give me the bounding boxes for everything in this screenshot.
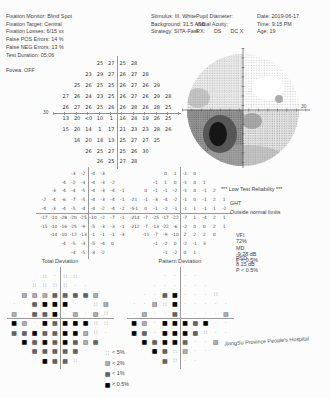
value-cell: 0 bbox=[141, 206, 151, 211]
prob-symbol: · bbox=[200, 311, 210, 316]
prob-symbol: · bbox=[160, 283, 170, 288]
prob-symbol: · bbox=[200, 348, 210, 353]
prob-symbol: ▩ bbox=[91, 338, 101, 345]
value-cell: 14 bbox=[83, 126, 94, 132]
legend-label: < 2% bbox=[112, 360, 124, 366]
grid-row: ■▨·■▩■■■∷∷ bbox=[9, 318, 111, 327]
value-cell: 26 bbox=[83, 148, 94, 154]
value-cell: 23 bbox=[128, 126, 139, 132]
value-cell: 25 bbox=[163, 115, 174, 121]
value-cell: 2 bbox=[180, 232, 190, 237]
value-cell: 26 bbox=[128, 148, 139, 154]
grayscale-plot: 30 bbox=[180, 46, 314, 170]
value-cell: 26 bbox=[117, 71, 128, 77]
grid-row: ■▨·■■■▩■·· bbox=[129, 318, 231, 327]
total-deviation-probability-map: ∷·∷∷∷∷∷∷··▨▨▨▩▩▩▩▨··▩■■■··∷▨▨·▩▩■·▨·▨∷■▨… bbox=[9, 271, 111, 365]
grid-row: -14-7-25-17-22-71-421 bbox=[130, 213, 230, 222]
value-cell: -7 bbox=[68, 197, 78, 202]
prob-symbol: ∷ bbox=[50, 282, 60, 288]
value-cell: -25 bbox=[68, 224, 78, 229]
value-cell: -1 bbox=[108, 232, 118, 237]
prob-symbol: ∷ bbox=[70, 273, 80, 279]
prob-symbol: ∷ bbox=[91, 301, 101, 307]
value-cell: -2 bbox=[98, 206, 108, 211]
value-cell: -1 bbox=[141, 197, 151, 202]
prob-symbol: ▩ bbox=[60, 291, 70, 298]
value-cell: 0 bbox=[190, 171, 200, 176]
grid-row: -17-10-28-20-25-10-2-7-1-2 bbox=[38, 213, 138, 222]
value-cell: 28 bbox=[151, 104, 162, 110]
prob-symbol: ▩ bbox=[190, 319, 200, 326]
prob-symbol: ▩ bbox=[40, 329, 50, 336]
value-cell: 27 bbox=[71, 104, 82, 110]
value-cell: -4 bbox=[49, 197, 59, 202]
prob-symbol: ■ bbox=[60, 300, 70, 307]
value-cell: -1 bbox=[117, 215, 127, 220]
value-cell: 0 bbox=[190, 224, 200, 229]
value-cell: 30 bbox=[140, 148, 151, 154]
text-line: Visual Acuity: bbox=[196, 21, 243, 29]
value-cell: 2 bbox=[209, 197, 219, 202]
value-cell: 1 bbox=[94, 126, 105, 132]
prob-symbol: ▩ bbox=[29, 338, 39, 345]
value-cell: 0 bbox=[190, 180, 200, 185]
value-cell: -10 bbox=[88, 215, 98, 220]
value-cell: 0 bbox=[141, 188, 151, 193]
prob-symbol: ▩ bbox=[19, 329, 29, 336]
prob-symbol: ▩ bbox=[50, 329, 60, 336]
value-cell: 0 bbox=[170, 180, 180, 185]
value-cell: -4 bbox=[160, 197, 170, 202]
grid-row: ·▨··▩····▨ bbox=[129, 309, 231, 318]
value-cell: 2 bbox=[200, 232, 210, 237]
prob-symbol: ■ bbox=[40, 319, 50, 326]
value-cell: 27 bbox=[106, 60, 117, 66]
prob-symbol: ▩ bbox=[160, 291, 170, 298]
value-cell: -4 bbox=[98, 241, 108, 246]
grid-row: -12-7-13-22-6-20021 bbox=[130, 222, 230, 231]
value-cell: 1 bbox=[219, 224, 229, 229]
text-line: Date: 2019-06-17 bbox=[257, 13, 299, 21]
value-cell: 1 bbox=[190, 215, 200, 220]
prob-symbol: · bbox=[9, 301, 19, 306]
value-cell: -4 bbox=[88, 197, 98, 202]
grid-row: ▨▨▨▩▩▩▩▨ bbox=[9, 290, 111, 299]
value-cell: 23 bbox=[94, 93, 105, 99]
prob-symbol: · bbox=[129, 311, 139, 316]
prob-symbol: ■ bbox=[180, 319, 190, 326]
value-cell: -11 bbox=[141, 232, 151, 237]
value-cell: -3 bbox=[98, 171, 108, 176]
grid-row: ······ bbox=[129, 280, 231, 289]
prob-symbol: ▨ bbox=[149, 300, 159, 307]
prob-symbol: · bbox=[221, 320, 231, 325]
value-cell: -14 bbox=[49, 232, 59, 237]
legend-item: ▨< 2% bbox=[103, 358, 129, 369]
value-cell: 2 bbox=[209, 215, 219, 220]
value-cell: -5 bbox=[78, 188, 88, 193]
value-cell: -1 bbox=[151, 180, 161, 185]
prob-symbol: ▩ bbox=[70, 347, 80, 354]
value-cell: 26 bbox=[117, 104, 128, 110]
grid-row: ··▩■···∷ bbox=[129, 290, 231, 299]
prob-symbol: ▩ bbox=[50, 319, 60, 326]
grid-row: 1520141172123232826 bbox=[58, 123, 176, 134]
legend-symbol: ▩ bbox=[103, 370, 112, 377]
value-cell: 27 bbox=[140, 137, 151, 143]
grid-row: 26272625262628262825 bbox=[58, 102, 176, 113]
prob-symbol: · bbox=[170, 283, 180, 288]
value-cell: -1 bbox=[98, 232, 108, 237]
value-cell: -4 bbox=[88, 188, 98, 193]
value-cell: -22 bbox=[160, 224, 170, 229]
value-cell: 16 bbox=[71, 137, 82, 143]
grid-row: -4-3-4-5-4-4-2-4-2-5 bbox=[38, 204, 138, 213]
prob-symbol: ▨ bbox=[29, 291, 39, 298]
prob-symbol: ■ bbox=[19, 338, 29, 345]
prob-symbol: ▨ bbox=[70, 310, 80, 317]
prob-symbol: ■ bbox=[149, 347, 159, 354]
value-cell: 0 bbox=[209, 232, 219, 237]
value-cell: -7 bbox=[151, 232, 161, 237]
legend-symbol: ∷ bbox=[103, 349, 112, 356]
value-cell: -1 bbox=[151, 241, 161, 246]
prob-symbol: ∷ bbox=[200, 329, 210, 335]
value-cell: 26 bbox=[163, 126, 174, 132]
value-cell: 28 bbox=[163, 93, 174, 99]
